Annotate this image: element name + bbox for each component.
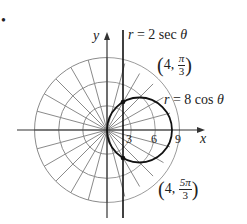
y-axis-label: y: [93, 29, 99, 43]
grid-spoke: [107, 130, 125, 197]
label-r-2sec: r = 2 sec θ: [128, 28, 187, 42]
grid-spoke: [37, 111, 107, 130]
grid-spoke: [107, 130, 170, 147]
label-point-pi3: (4, π3): [157, 53, 192, 77]
intersection-point-5pi3: [121, 156, 126, 161]
tick-label-3: 3: [126, 133, 132, 145]
bullet-marker: •: [1, 14, 6, 28]
grid-spoke: [88, 60, 107, 130]
grid-spoke: [107, 64, 125, 131]
label-r-8cos: r = 8 cos θ: [164, 93, 224, 107]
intersection-point-pi3: [121, 100, 126, 105]
grid-spoke: [107, 113, 170, 130]
tick-label-9: 9: [175, 133, 181, 145]
label-point-5pi3: (4, 5π3): [158, 177, 198, 201]
x-axis-label: x: [200, 132, 206, 146]
tick-label-6: 6: [151, 133, 157, 145]
polar-diagram: [0, 0, 247, 224]
grid-spoke: [37, 130, 107, 149]
grid-spoke: [88, 130, 107, 200]
y-axis-arrow-icon: [104, 32, 110, 40]
